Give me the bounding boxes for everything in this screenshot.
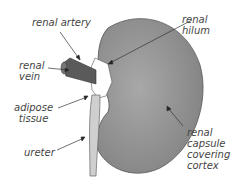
ureter-shape [90, 95, 101, 176]
label-renal-vein: renal vein [19, 60, 45, 82]
label-adipose-tissue: adipose tissue [14, 102, 53, 124]
label-renal-hilum: renal hilum [182, 14, 210, 36]
label-ureter: ureter [24, 147, 55, 158]
label-renal-capsule: renal capsule covering cortex [187, 127, 230, 171]
label-renal-artery: renal artery [32, 17, 91, 28]
